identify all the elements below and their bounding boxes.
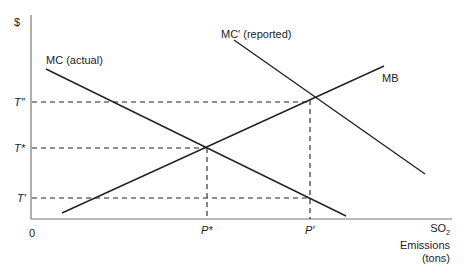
x-axis-title-subscript: 2 (446, 229, 450, 236)
x-axis-title-emissions: Emissions (380, 239, 450, 252)
y-axis-label: $ (14, 17, 20, 28)
t-star-label: T* (14, 143, 25, 154)
mb-curve (62, 66, 384, 213)
origin-label: 0 (29, 228, 35, 239)
mc-actual-curve (46, 69, 346, 216)
t-prime-label: T′ (17, 193, 26, 204)
x-axis-title-units: (tons) (380, 252, 450, 265)
x-axis-title-so: SO (430, 222, 446, 234)
mc-reported-curve (234, 40, 425, 174)
p-star-label: P* (201, 225, 213, 236)
p-prime-label: P′ (305, 225, 314, 236)
mc-actual-label: MC (actual) (46, 55, 103, 66)
t-double-prime-label: T″ (14, 97, 25, 108)
x-axis-title: SO2 Emissions (tons) (380, 222, 450, 265)
mb-label: MB (382, 73, 399, 84)
mc-reported-label: MC′ (reported) (221, 29, 292, 40)
